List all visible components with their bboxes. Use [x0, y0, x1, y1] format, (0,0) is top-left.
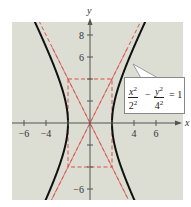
x-tick-label-6: 6: [154, 128, 159, 139]
y-tick-label-8: 8: [79, 30, 84, 41]
exponent: 2: [159, 85, 163, 93]
y-tick-label-6: 6: [79, 52, 84, 63]
fraction-x: x2 22: [128, 84, 138, 112]
exponent: 2: [133, 85, 137, 93]
x-tick-label-m6: −6: [19, 128, 30, 139]
equation-callout: x2 22 − y2 42 = 1: [124, 77, 185, 114]
y-tick-label-m6: −6: [73, 184, 84, 195]
x-tick-label-4: 4: [132, 128, 137, 139]
y-axis-arrow-icon: [88, 18, 93, 25]
exponent: 2: [160, 99, 164, 107]
fraction-y: y2 42: [154, 84, 164, 112]
y-axis-label: y: [86, 5, 92, 16]
x-tick-label-m4: −4: [41, 128, 52, 139]
equals-one: = 1: [169, 89, 182, 100]
x-axis-label: x: [184, 117, 190, 128]
minus-sign: −: [145, 89, 151, 100]
exponent: 2: [134, 99, 138, 107]
